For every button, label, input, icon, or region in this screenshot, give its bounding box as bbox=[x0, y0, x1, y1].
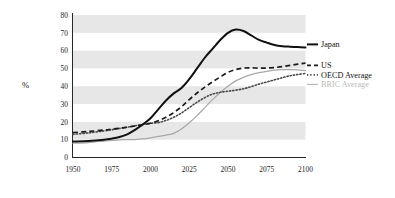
legend-item-japan[interactable]: Japan bbox=[307, 40, 340, 49]
chart-container: 01020304050607080 1950197520002025205020… bbox=[0, 0, 395, 198]
y-tick-label: 50 bbox=[61, 64, 69, 73]
y-tick-label: 20 bbox=[61, 118, 69, 127]
x-tick-labels: 1950197520002025205020752100 bbox=[66, 165, 314, 174]
legend: JapanUSOECD AverageBRIC Average bbox=[307, 40, 372, 89]
y-tick-label: 40 bbox=[61, 82, 69, 91]
y-tick-label: 0 bbox=[64, 153, 68, 162]
plot-band bbox=[73, 15, 306, 33]
x-tick-label: 2050 bbox=[221, 165, 236, 174]
legend-label-us: US bbox=[321, 61, 332, 70]
y-tick-label: 60 bbox=[61, 46, 69, 55]
legend-item-us[interactable]: US bbox=[307, 61, 332, 70]
x-tick-label: 2000 bbox=[143, 165, 158, 174]
y-axis-title: % bbox=[22, 80, 29, 90]
y-tick-label: 80 bbox=[61, 11, 69, 20]
x-tick-label: 1950 bbox=[66, 165, 81, 174]
plot-bands bbox=[73, 15, 306, 140]
y-tick-label: 70 bbox=[61, 29, 69, 38]
plot-band bbox=[73, 86, 306, 104]
y-tick-labels: 01020304050607080 bbox=[61, 11, 69, 163]
line-chart: 01020304050607080 1950197520002025205020… bbox=[0, 0, 395, 198]
x-tick-label: 1975 bbox=[104, 165, 119, 174]
plot-band bbox=[73, 51, 306, 69]
x-tick-label: 2075 bbox=[259, 165, 274, 174]
legend-label-oecd-average: OECD Average bbox=[321, 71, 372, 80]
x-tick-label: 2100 bbox=[298, 165, 313, 174]
x-tick-label: 2025 bbox=[182, 165, 197, 174]
legend-label-japan: Japan bbox=[321, 40, 340, 49]
legend-label-bric-average: BRIC Average bbox=[321, 80, 369, 89]
y-tick-label: 10 bbox=[61, 135, 69, 144]
legend-item-bric-average[interactable]: BRIC Average bbox=[307, 80, 369, 89]
y-tick-label: 30 bbox=[61, 100, 69, 109]
legend-item-oecd-average[interactable]: OECD Average bbox=[307, 71, 372, 80]
